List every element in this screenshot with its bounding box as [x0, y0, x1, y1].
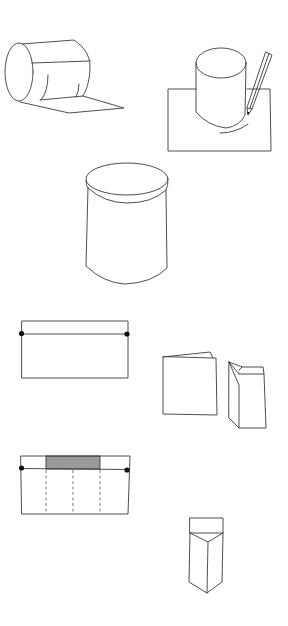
figure-trace-cylinder [168, 48, 272, 151]
marker-dot-left [19, 465, 24, 470]
marker-dot-left [19, 331, 24, 336]
figure-container-with-lid [86, 163, 168, 284]
figure-paper-strip-fold [19, 321, 130, 378]
marker-dot-right [124, 331, 129, 336]
figure-folded-card [163, 352, 217, 415]
figure-strip-with-tab [19, 456, 130, 514]
shaded-tab [46, 456, 100, 469]
pencil-icon [247, 52, 272, 115]
instruction-diagram [0, 0, 288, 626]
figure-folded-column [229, 362, 266, 428]
figure-triangular-prism [189, 518, 223, 593]
marker-dot-right [124, 467, 129, 472]
figure-rolled-paper [5, 40, 124, 113]
